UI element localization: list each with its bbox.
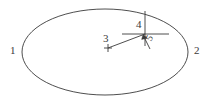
callout-label-4: 4	[136, 19, 142, 30]
callout-label-3: 3	[103, 33, 109, 44]
outer-ellipse	[22, 9, 188, 95]
leader-line	[108, 34, 145, 48]
callout-label-2: 2	[194, 45, 200, 56]
diagram-svg	[0, 0, 212, 104]
figure-canvas: 1 2 3 4 5	[0, 0, 212, 104]
callout-label-1: 1	[10, 45, 16, 56]
